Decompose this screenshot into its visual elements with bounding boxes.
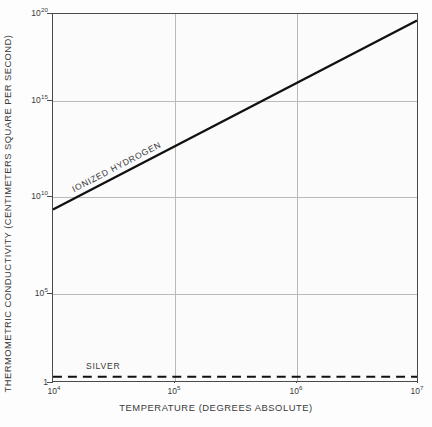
- x-tick-label-1e5: 105: [167, 386, 180, 396]
- y-tick-label-1e15: 1015: [31, 95, 48, 105]
- y-tick-label-1e20: 1020: [31, 8, 48, 18]
- x-tick-label-1e4: 104: [47, 386, 60, 396]
- series-label-silver: SILVER: [86, 361, 120, 371]
- x-tick-exponent: 7: [420, 384, 424, 391]
- x-tick-label-1e7: 107: [410, 386, 423, 396]
- plot-area: IONIZED HYDROGEN SILVER: [52, 13, 418, 382]
- x-tick-exponent: 4: [57, 384, 61, 391]
- figure-canvas: THERMOMETRIC CONDUCTIVITY (CENTIMETERS S…: [0, 0, 432, 427]
- y-axis-title: THERMOMETRIC CONDUCTIVITY (CENTIMETERS S…: [0, 0, 16, 427]
- series-line-ionized-hydrogen: [53, 21, 417, 210]
- x-tick-exponent: 5: [177, 384, 181, 391]
- series-layer: [53, 14, 417, 381]
- x-axis-title: TEMPERATURE (DEGREES ABSOLUTE): [0, 402, 432, 413]
- x-tick-exponent: 6: [299, 384, 303, 391]
- x-tick-label-1e6: 106: [289, 386, 302, 396]
- y-tick-label-1e10: 1010: [31, 191, 48, 201]
